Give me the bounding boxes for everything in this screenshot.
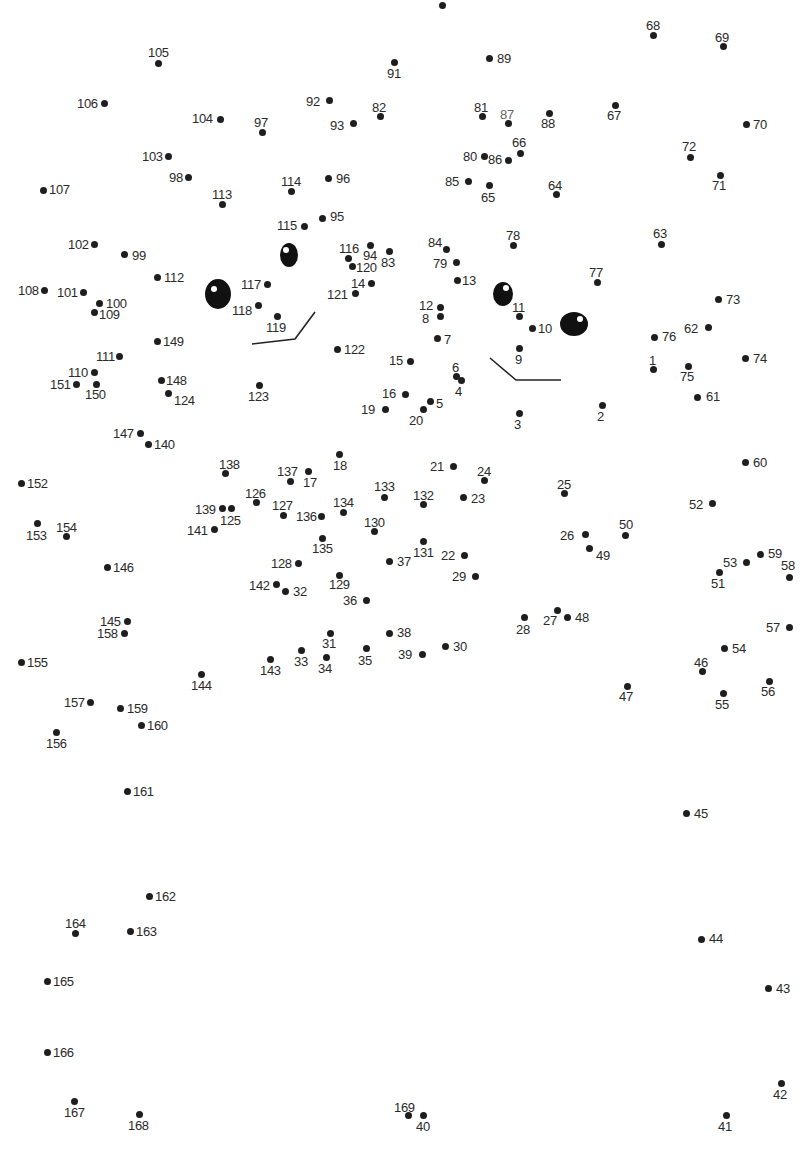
dot-43[interactable]	[765, 985, 772, 992]
dot-119[interactable]	[274, 313, 281, 320]
dot-18[interactable]	[336, 451, 343, 458]
dot-52[interactable]	[709, 500, 716, 507]
dot-128[interactable]	[295, 560, 302, 567]
dot-57[interactable]	[786, 624, 793, 631]
dot-125[interactable]	[228, 505, 235, 512]
dot-35[interactable]	[363, 645, 370, 652]
dot-166[interactable]	[44, 1049, 51, 1056]
dot-86[interactable]	[505, 157, 512, 164]
dot-133[interactable]	[381, 494, 388, 501]
dot-153[interactable]	[34, 520, 41, 527]
dot-168[interactable]	[136, 1111, 143, 1118]
dot-143[interactable]	[267, 656, 274, 663]
dot-90[interactable]	[439, 2, 446, 9]
dot-105[interactable]	[155, 60, 162, 67]
dot-9[interactable]	[516, 345, 523, 352]
dot-17[interactable]	[305, 468, 312, 475]
dot-120[interactable]	[349, 263, 356, 270]
dot-70[interactable]	[743, 121, 750, 128]
dot-145[interactable]	[124, 618, 131, 625]
dot-55[interactable]	[720, 690, 727, 697]
dot-115[interactable]	[301, 223, 308, 230]
dot-83[interactable]	[386, 248, 393, 255]
dot-104[interactable]	[217, 116, 224, 123]
dot-19[interactable]	[382, 406, 389, 413]
dot-103[interactable]	[165, 153, 172, 160]
dot-20[interactable]	[420, 406, 427, 413]
dot-37[interactable]	[386, 558, 393, 565]
dot-74[interactable]	[742, 355, 749, 362]
dot-53[interactable]	[743, 559, 750, 566]
dot-8[interactable]	[437, 313, 444, 320]
dot-148[interactable]	[158, 377, 165, 384]
dot-32[interactable]	[282, 588, 289, 595]
dot-34[interactable]	[323, 654, 330, 661]
dot-111[interactable]	[116, 353, 123, 360]
dot-102[interactable]	[91, 241, 98, 248]
dot-40[interactable]	[420, 1112, 427, 1119]
dot-13[interactable]	[454, 277, 461, 284]
dot-15[interactable]	[407, 358, 414, 365]
dot-161[interactable]	[124, 788, 131, 795]
dot-79[interactable]	[453, 259, 460, 266]
dot-92[interactable]	[326, 97, 333, 104]
dot-149[interactable]	[154, 338, 161, 345]
dot-30[interactable]	[442, 643, 449, 650]
dot-156[interactable]	[53, 729, 60, 736]
dot-118[interactable]	[255, 302, 262, 309]
dot-95[interactable]	[319, 215, 326, 222]
dot-61[interactable]	[694, 394, 701, 401]
dot-117[interactable]	[264, 281, 271, 288]
dot-62[interactable]	[705, 324, 712, 331]
dot-50[interactable]	[622, 532, 629, 539]
dot-26[interactable]	[582, 531, 589, 538]
dot-65[interactable]	[486, 182, 493, 189]
dot-93[interactable]	[350, 120, 357, 127]
dot-22[interactable]	[461, 552, 468, 559]
dot-165[interactable]	[44, 978, 51, 985]
dot-36[interactable]	[363, 597, 370, 604]
dot-142[interactable]	[273, 581, 280, 588]
dot-124[interactable]	[165, 390, 172, 397]
dot-84[interactable]	[443, 246, 450, 253]
dot-14[interactable]	[368, 280, 375, 287]
dot-59[interactable]	[757, 551, 764, 558]
dot-33[interactable]	[298, 647, 305, 654]
dot-160[interactable]	[138, 722, 145, 729]
dot-80[interactable]	[481, 153, 488, 160]
dot-157[interactable]	[87, 699, 94, 706]
dot-159[interactable]	[117, 705, 124, 712]
dot-3[interactable]	[516, 410, 523, 417]
dot-16[interactable]	[402, 391, 409, 398]
dot-7[interactable]	[434, 335, 441, 342]
dot-100[interactable]	[96, 300, 103, 307]
dot-108[interactable]	[41, 287, 48, 294]
dot-101[interactable]	[80, 289, 87, 296]
dot-123[interactable]	[256, 382, 263, 389]
dot-167[interactable]	[71, 1098, 78, 1105]
dot-51[interactable]	[716, 569, 723, 576]
dot-152[interactable]	[18, 480, 25, 487]
dot-96[interactable]	[325, 175, 332, 182]
dot-110[interactable]	[91, 369, 98, 376]
dot-5[interactable]	[427, 398, 434, 405]
dot-72[interactable]	[687, 154, 694, 161]
dot-98[interactable]	[185, 174, 192, 181]
dot-121[interactable]	[352, 290, 359, 297]
dot-155[interactable]	[18, 659, 25, 666]
dot-39[interactable]	[419, 651, 426, 658]
dot-44[interactable]	[698, 936, 705, 943]
dot-109[interactable]	[91, 309, 98, 316]
dot-147[interactable]	[137, 430, 144, 437]
dot-38[interactable]	[386, 630, 393, 637]
dot-144[interactable]	[198, 671, 205, 678]
dot-91[interactable]	[391, 59, 398, 66]
dot-139[interactable]	[219, 505, 226, 512]
dot-54[interactable]	[721, 645, 728, 652]
dot-10[interactable]	[529, 325, 536, 332]
dot-76[interactable]	[651, 334, 658, 341]
dot-41[interactable]	[723, 1112, 730, 1119]
dot-112[interactable]	[154, 274, 161, 281]
dot-12[interactable]	[437, 304, 444, 311]
dot-107[interactable]	[40, 187, 47, 194]
